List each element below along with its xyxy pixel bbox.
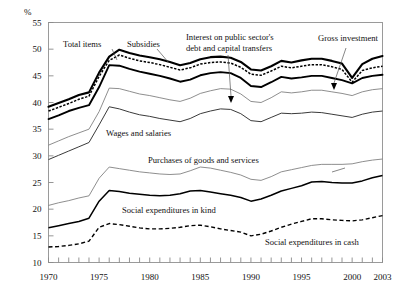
x-tick-label: 1995 [293, 272, 312, 282]
annotation-leaders [112, 48, 346, 172]
x-tick-label: 1985 [191, 272, 210, 282]
expenditure-line-chart: % 10152025303540455055 19701975198019851… [0, 0, 405, 298]
annotation-total-items: Total items [63, 39, 102, 49]
annotation-wages-and-salaries: Wages and salaries [106, 128, 172, 138]
annotation-purchases: Purchases of goods and services [148, 155, 259, 165]
x-axis: 19701975198019851990199520002003 [40, 258, 393, 282]
x-tick-label: 1975 [90, 272, 109, 282]
series-group [49, 50, 383, 247]
series-line-social-expenditures-in-kind [49, 176, 383, 228]
annotation-social-in-kind: Social expenditures in kind [122, 205, 217, 215]
y-tick-label: 15 [33, 231, 43, 241]
y-tick-label: 25 [33, 178, 43, 188]
annotation-interest-line1: Interest on public sector's [186, 32, 274, 42]
plot-frame [49, 23, 383, 263]
leader-interest [228, 55, 231, 96]
y-tick-label: 45 [33, 71, 43, 81]
y-axis: 10152025303540455055 [33, 18, 54, 268]
annotation-social-in-cash: Social expenditures in cash [265, 237, 359, 247]
x-tick-label: 1970 [40, 272, 59, 282]
y-tick-label: 55 [33, 18, 43, 28]
annotation-gross-investment: Gross investment [318, 33, 379, 43]
leader-arrow-gross-investment [331, 83, 337, 90]
annotation-interest-line2: debt and capital transfers [186, 43, 273, 53]
x-tick-label: 2000 [343, 272, 362, 282]
series-line-wages-and-salaries-upper-bound [49, 88, 383, 145]
y-tick-label: 30 [33, 151, 43, 161]
y-tick-label: 35 [33, 124, 43, 134]
series-line-wages-and-salaries [49, 107, 383, 160]
y-tick-label: 40 [33, 98, 43, 108]
x-tick-label: 2003 [374, 272, 393, 282]
x-tick-label: 1990 [242, 272, 261, 282]
x-tick-label: 1980 [141, 272, 160, 282]
leader-purchases [332, 168, 345, 172]
y-tick-label: 10 [33, 258, 43, 268]
y-tick-label: 50 [33, 44, 43, 54]
leader-arrow-interest [228, 96, 234, 103]
y-tick-label: 20 [33, 204, 43, 214]
annotation-subsidies: Subsidies [127, 39, 161, 49]
y-axis-unit-label: % [24, 7, 32, 17]
chart-svg: % 10152025303540455055 19701975198019851… [0, 0, 405, 298]
